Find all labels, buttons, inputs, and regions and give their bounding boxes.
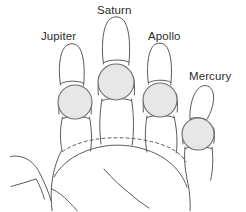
thumb-partial (11, 156, 52, 200)
jupiter-proximal-left (60, 117, 62, 150)
saturn-nail-crease (104, 60, 129, 63)
jupiter-mount-circle (58, 85, 92, 119)
hand-drawing (0, 0, 246, 211)
palm-crease-lower (133, 197, 149, 209)
palm-left-edge (51, 151, 61, 212)
finger-label-jupiter: Jupiter (41, 30, 76, 43)
finger-label-apollo: Apollo (148, 30, 181, 43)
thumb-outer-edge (11, 156, 41, 175)
palm-dome-outline (54, 145, 187, 187)
thumb-crease (37, 180, 45, 200)
mercury-mount-circle (182, 118, 214, 150)
palmistry-hand-diagram: Jupiter Saturn Apollo Mercury (0, 0, 246, 211)
apollo-nail-crease (149, 80, 171, 82)
jupiter-nail-crease (61, 81, 84, 83)
palm-crease-upper (104, 169, 133, 196)
palm-inner-left-line (69, 202, 78, 212)
mercury-fingertip (190, 86, 214, 122)
thumb-web-line (11, 179, 36, 187)
palm-right-edge (187, 178, 191, 212)
jupiter-fingertip (59, 44, 84, 86)
saturn-proximal-left (100, 99, 102, 144)
saturn-mount-circle (98, 64, 134, 100)
apollo-fingertip (148, 43, 172, 85)
apollo-proximal-left (145, 116, 147, 152)
saturn-fingertip (102, 17, 129, 65)
finger-label-saturn: Saturn (97, 4, 131, 17)
palm (51, 138, 190, 211)
apollo-mount-circle (143, 83, 177, 117)
palm-thumb-bracket (52, 189, 68, 201)
thumb-lower-edge (41, 176, 51, 201)
mercury-proximal-right (211, 147, 213, 180)
apollo-proximal-right (174, 116, 177, 153)
jupiter-proximal-right (90, 117, 92, 151)
finger-label-mercury: Mercury (189, 70, 231, 83)
palm-knuckle-arc (63, 138, 187, 162)
